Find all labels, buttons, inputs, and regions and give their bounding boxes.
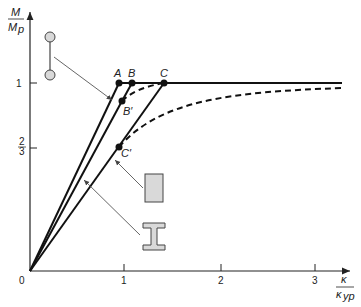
- x-tick-2: 2: [218, 275, 224, 286]
- y-axis-label-num: M: [11, 6, 21, 18]
- point-B-prime: [119, 98, 126, 105]
- label-B: B: [128, 67, 135, 79]
- x-tick-3: 3: [312, 275, 318, 286]
- label-C-prime: C′: [121, 147, 132, 159]
- sandwich-section-icon: [45, 32, 55, 80]
- y-axis-label-den: M: [8, 21, 18, 33]
- elastic-line-C: [30, 83, 164, 271]
- label-C: C: [160, 67, 168, 79]
- label-A: A: [113, 67, 121, 79]
- pointer-arrow-rectangular: [115, 160, 143, 188]
- moment-curvature-diagram: 1 2 3 0 1 2 3 M M p κ κ yp A B C B′ C′: [0, 0, 361, 307]
- y-axis-label-sub: p: [17, 23, 24, 35]
- curve-C-prime: [119, 88, 342, 147]
- y-tick-1: 1: [16, 78, 22, 89]
- point-B: [129, 80, 136, 87]
- x-axis-label-num: κ: [341, 273, 347, 285]
- x-axis-label-den: κ: [336, 288, 342, 300]
- elastic-line-B: [30, 101, 122, 271]
- pointer-arrow-i-beam: [84, 180, 140, 235]
- label-B-prime: B′: [123, 105, 133, 117]
- x-tick-0: 0: [19, 275, 25, 286]
- rectangular-section-icon: [145, 174, 163, 202]
- x-axis-label-sub: yp: [342, 290, 355, 302]
- y-tick-two-thirds-den: 3: [19, 146, 25, 157]
- point-C: [161, 80, 168, 87]
- elastic-line-A: [30, 83, 119, 271]
- pointer-arrow-sandwich: [54, 57, 112, 100]
- point-A: [116, 80, 123, 87]
- i-beam-section-icon: [143, 223, 165, 250]
- x-tick-1: 1: [121, 275, 127, 286]
